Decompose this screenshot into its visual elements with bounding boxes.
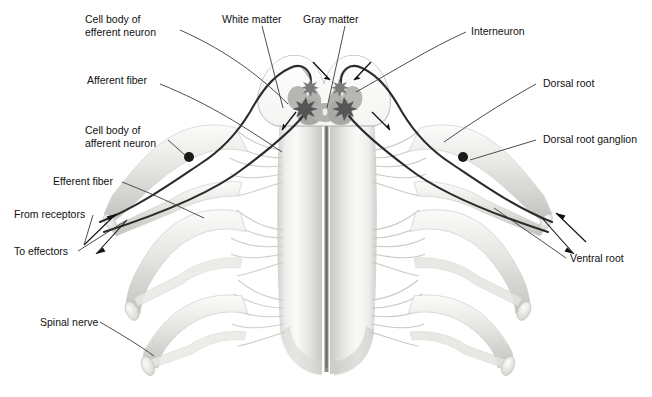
right-dorsal-root-ganglion-cell-body xyxy=(458,152,468,162)
right-afferent-direction-arrow xyxy=(556,213,586,242)
spinal-nerve-trunk-left-lower xyxy=(139,295,248,378)
left-dorsal-root-ganglion-cell-body xyxy=(184,152,194,162)
nerve-rootlets-right xyxy=(371,130,426,346)
diagram-canvas: Cell body of efferent neuron White matte… xyxy=(0,0,652,397)
label-to-effectors: To effectors xyxy=(14,245,68,257)
label-afferent-fiber: Afferent fiber xyxy=(87,74,147,86)
arrowhead-right-out xyxy=(386,124,390,131)
label-interneuron: Interneuron xyxy=(471,25,525,37)
label-spinal-nerve: Spinal nerve xyxy=(40,316,99,328)
label-cell-body-afferent-line2: afferent neuron xyxy=(85,137,156,149)
label-gray-matter: Gray matter xyxy=(303,13,359,25)
spinal-cord-diagram: Cell body of efferent neuron White matte… xyxy=(0,0,652,397)
label-white-matter: White matter xyxy=(222,13,282,25)
spinal-nerve-trunk-right-lower xyxy=(408,295,517,378)
label-dorsal-root: Dorsal root xyxy=(543,77,594,89)
label-from-receptors: From receptors xyxy=(14,208,85,220)
right-efferent-direction-arrow xyxy=(542,218,574,254)
leader-spinal-nerve xyxy=(100,322,154,356)
label-cell-body-efferent-line2: efferent neuron xyxy=(85,26,156,38)
label-cell-body-efferent-line1: Cell body of xyxy=(85,13,141,25)
central-canal xyxy=(323,109,328,116)
label-cell-body-afferent-line1: Cell body of xyxy=(85,124,141,136)
label-efferent-fiber: Efferent fiber xyxy=(53,175,113,187)
label-ventral-root: Ventral root xyxy=(570,252,624,264)
arrowhead-right-in-periphery xyxy=(556,213,566,220)
label-dorsal-root-ganglion: Dorsal root ganglion xyxy=(543,133,637,145)
